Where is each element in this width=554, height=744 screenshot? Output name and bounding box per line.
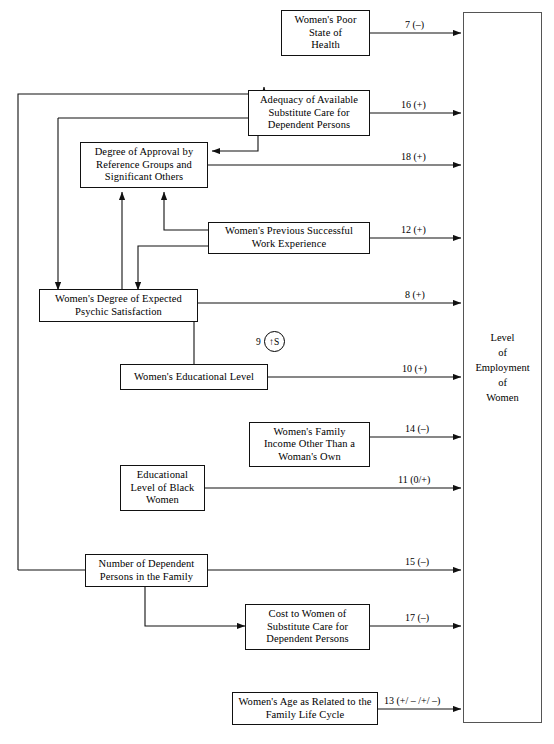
edge-label-11: 11 (0/+) — [397, 474, 431, 485]
edge-label-7: 7 (–) — [404, 19, 425, 30]
sigil-letter: S — [274, 337, 279, 347]
diagram-canvas: Women's Poor State of Health Adequacy of… — [0, 0, 554, 744]
node-womens-degree-of-expected-psychic-satisfaction[interactable]: Women's Degree of Expected Psychic Satis… — [39, 289, 198, 322]
node-womens-age-as-related-to-family-life-cycle[interactable]: Women's Age as Related to the Family Lif… — [232, 692, 378, 725]
sigil-9-s: 9 ↑S — [256, 331, 285, 352]
sigil-circle: ↑S — [264, 331, 285, 352]
edge-label-17: 17 (–) — [404, 612, 430, 623]
node-adequacy-of-available-substitute-care[interactable]: Adequacy of Available Substitute Care fo… — [248, 90, 370, 136]
node-number-of-dependent-persons-in-the-family[interactable]: Number of Dependent Persons in the Famil… — [85, 554, 208, 587]
edge-label-8: 8 (+) — [404, 289, 426, 300]
edge-adequacy-to-approval — [212, 136, 258, 151]
edge-label-12: 12 (+) — [400, 224, 427, 235]
edge-label-13: 13 (+/ – /+/ –) — [383, 695, 441, 706]
edge-workexp-to-psychic — [138, 246, 208, 290]
node-womens-previous-successful-work-experience[interactable]: Women's Previous Successful Work Experie… — [208, 222, 370, 254]
edge-workexp-to-approval — [164, 192, 208, 230]
edge-label-16: 16 (+) — [400, 99, 427, 110]
node-degree-of-approval-by-reference-groups[interactable]: Degree of Approval by Reference Groups a… — [80, 142, 208, 188]
edge-label-14: 14 (–) — [404, 423, 430, 434]
edge-label-15: 15 (–) — [404, 556, 430, 567]
edge-label-10: 10 (+) — [401, 363, 428, 374]
node-cost-to-women-of-substitute-care[interactable]: Cost to Women of Substitute Care for Dep… — [245, 604, 370, 650]
sigil-number: 9 — [256, 337, 261, 347]
node-educational-level-of-black-women[interactable]: Educational Level of Black Women — [120, 465, 205, 511]
edge-dependents-to-cost — [145, 587, 245, 626]
edge-label-18: 18 (+) — [400, 151, 427, 162]
node-level-of-employment-of-women[interactable]: Level of Employment of Women — [463, 12, 542, 723]
node-womens-family-income-other-than-a-womans-own[interactable]: Women's Family Income Other Than a Woman… — [249, 422, 370, 467]
node-womens-educational-level[interactable]: Women's Educational Level — [120, 364, 268, 390]
node-womens-poor-state-of-health[interactable]: Women's Poor State of Health — [281, 10, 370, 56]
